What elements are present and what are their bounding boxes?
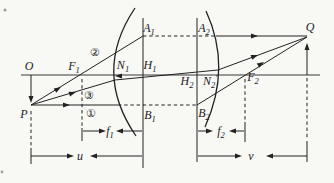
label-F2: F2 [246, 70, 259, 86]
label-ray3: ③ [84, 89, 94, 101]
label-N2-prime: N2′ [202, 73, 218, 90]
label-B2: B2 [198, 106, 210, 122]
label-N1: N1 [116, 58, 129, 74]
ray3-emergent-arrowhead [251, 53, 259, 60]
v-dim-right-arrowhead [235, 154, 242, 159]
f1-dim-left-arrowhead [116, 129, 123, 134]
f2-dim-right-arrowhead [206, 129, 213, 134]
label-P: P [19, 107, 28, 121]
ray1-incident-arrowhead [63, 103, 70, 108]
f2-dim-left-arrowhead [229, 129, 236, 134]
label-O: O [25, 59, 34, 73]
label-B1: B1 [144, 108, 156, 124]
label-ray1: ① [86, 107, 96, 119]
nodal-point-arrowhead [115, 74, 122, 79]
label-f2: f2 [217, 124, 225, 140]
u-dim-left-arrowhead [90, 154, 97, 159]
label-F1: F1 [67, 59, 80, 75]
diagram-canvas: OF1N1H1A1A2H2N2′F2QPB1B2①②③f1f2uv [0, 0, 334, 183]
u-dim-right-arrowhead [67, 154, 74, 159]
label-v: v [248, 149, 254, 163]
label-H1: H1 [143, 58, 157, 74]
scan-speck-bottom-left [1, 171, 4, 174]
scan-speck-top-left [3, 8, 6, 11]
optics-lens-diagram: OF1N1H1A1A2H2N2′F2QPB1B2①②③f1f2uv [0, 0, 334, 183]
ray2-emergent-arrowhead [251, 34, 258, 39]
label-f1: f1 [106, 124, 114, 140]
v-dim-left-arrowhead [266, 154, 273, 159]
label-u: u [77, 149, 83, 163]
label-Q: Q [306, 20, 315, 34]
label-ray2: ② [90, 46, 100, 58]
label-H2: H2 [180, 74, 195, 90]
f1-dim-right-arrowhead [99, 129, 106, 134]
image-arrowhead [305, 43, 310, 50]
label-A1: A1 [142, 21, 155, 37]
label-A2: A2 [197, 21, 210, 37]
ray3-incident-arrowhead [69, 90, 77, 97]
object-arrowhead [29, 96, 34, 103]
